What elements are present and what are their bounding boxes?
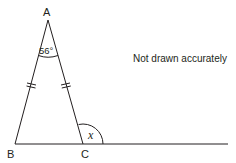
side-ac xyxy=(48,20,83,144)
vertex-label-c: C xyxy=(81,148,89,160)
triangle-diagram: A B C 56° x Not drawn accurately xyxy=(0,0,236,163)
apex-angle-label: 56° xyxy=(39,45,54,56)
side-ab xyxy=(15,20,48,144)
equal-tick-ab xyxy=(27,83,37,88)
vertex-label-a: A xyxy=(43,6,51,18)
not-drawn-accurately-note: Not drawn accurately xyxy=(133,53,227,64)
equal-tick-ac xyxy=(61,83,71,88)
vertex-label-b: B xyxy=(7,148,14,160)
exterior-angle-label: x xyxy=(87,128,94,142)
